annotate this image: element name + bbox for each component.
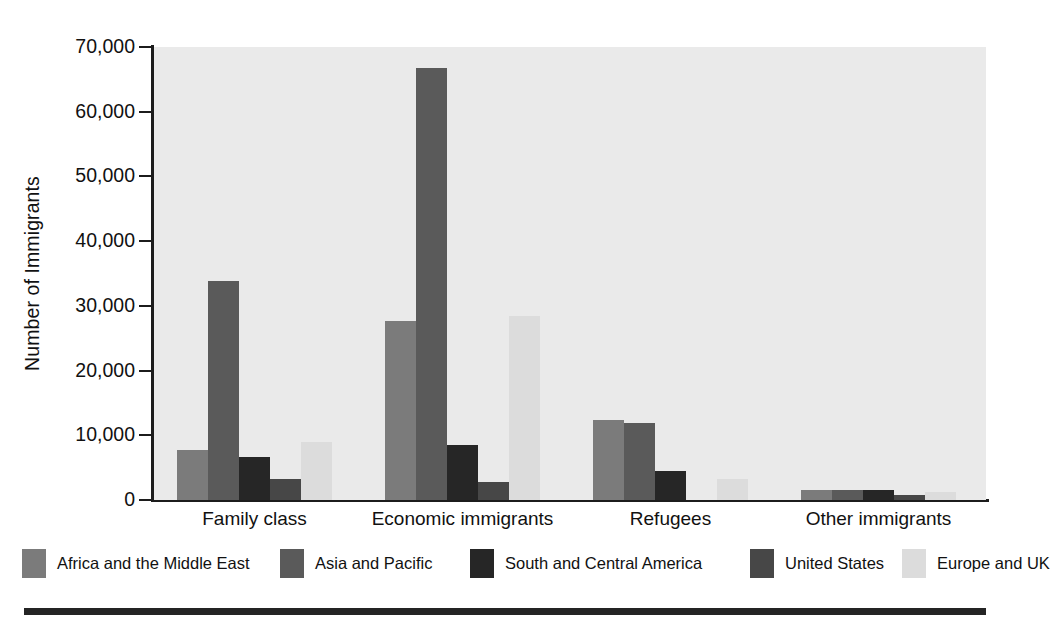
y-tick-label: 60,000	[39, 102, 135, 122]
y-tick-label: 20,000	[39, 361, 135, 381]
legend-swatch	[22, 549, 46, 578]
legend-label: South and Central America	[505, 555, 702, 572]
x-category-label: Other immigrants	[729, 508, 1029, 530]
y-axis-title: Number of Immigrants	[21, 74, 44, 474]
bar	[801, 490, 832, 500]
bar	[447, 445, 478, 500]
legend-swatch	[470, 549, 494, 578]
y-tick-label: 30,000	[39, 296, 135, 316]
legend-label: Europe and UK	[937, 555, 1050, 572]
legend-item[interactable]: Africa and the Middle East	[22, 547, 250, 579]
legend-item[interactable]: United States	[750, 547, 884, 579]
bar	[270, 479, 301, 500]
legend-item[interactable]: Asia and Pacific	[280, 547, 432, 579]
y-tick-label: 10,000	[39, 425, 135, 445]
bar	[832, 490, 863, 500]
bar	[478, 482, 509, 500]
bar	[509, 316, 540, 500]
bar	[717, 479, 748, 500]
plot-area	[154, 47, 986, 500]
bar	[208, 281, 239, 500]
bar	[925, 492, 956, 500]
legend-label: United States	[785, 555, 884, 572]
y-tick-label: 70,000	[39, 37, 135, 57]
bar	[239, 457, 270, 500]
y-tick-label: 50,000	[39, 166, 135, 186]
legend-swatch	[902, 549, 926, 578]
legend-item[interactable]: South and Central America	[470, 547, 702, 579]
y-tick-label: 40,000	[39, 231, 135, 251]
chart-legend: Africa and the Middle EastAsia and Pacif…	[22, 547, 992, 579]
legend-swatch	[750, 549, 774, 578]
bottom-rule	[24, 608, 986, 615]
y-tick-label: 0	[39, 490, 135, 510]
bar	[894, 495, 925, 500]
legend-label: Africa and the Middle East	[57, 555, 250, 572]
bar	[624, 423, 655, 500]
legend-label: Asia and Pacific	[315, 555, 432, 572]
bar	[416, 68, 447, 500]
bar	[177, 450, 208, 500]
bar	[385, 321, 416, 500]
bar	[655, 471, 686, 500]
legend-item[interactable]: Europe and UK	[902, 547, 1050, 579]
bar	[593, 420, 624, 500]
legend-swatch	[280, 549, 304, 578]
bar	[863, 490, 894, 500]
bar	[301, 442, 332, 500]
